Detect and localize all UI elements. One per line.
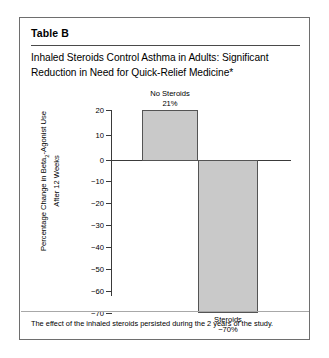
bar-chart: Percentage Change in Beta2-Agonist Use A… <box>20 102 309 307</box>
y-tick-mark <box>106 181 112 182</box>
y-tick-label: −10 <box>78 177 104 186</box>
header-divider <box>31 45 300 46</box>
y-tick-label: −60 <box>78 287 104 296</box>
y-tick-mark <box>106 269 112 270</box>
y-axis-label-line2: After 12 Weeks <box>52 96 61 266</box>
table-card: Table B Inhaled Steroids Control Asthma … <box>19 17 310 340</box>
y-tick-mark <box>106 313 112 314</box>
y-tick-mark <box>106 160 112 161</box>
y-tick-label: −50 <box>78 265 104 274</box>
y-axis-label-subscript: 2 <box>44 154 50 157</box>
footnote-text: The effect of the inhaled steroids persi… <box>31 319 303 329</box>
y-tick-mark <box>106 291 112 292</box>
y-tick-label: 10 <box>78 131 104 140</box>
chart-title: Inhaled Steroids Control Asthma in Adult… <box>31 51 303 80</box>
table-label: Table B <box>31 27 69 39</box>
y-tick-label: 20 <box>78 106 104 115</box>
y-tick-label: −30 <box>78 221 104 230</box>
y-tick-label: −70 <box>78 309 104 318</box>
y-axis-label-line1-b: -Agonist Use <box>39 111 48 154</box>
y-tick-mark <box>106 203 112 204</box>
y-tick-label: −20 <box>78 199 104 208</box>
footnote-divider <box>21 311 309 312</box>
y-tick-label: −40 <box>78 243 104 252</box>
y-axis-label-line1-a: Percentage Change in Beta <box>39 158 48 251</box>
y-axis-label: Percentage Change in Beta2-Agonist Use A… <box>39 96 61 266</box>
y-tick-mark <box>106 247 112 248</box>
bar-label-no-steroids: No Steroids 21% <box>128 89 212 108</box>
bar-no-steroids <box>142 110 198 161</box>
bar-label-no-steroids-name: No Steroids <box>128 89 212 99</box>
bar-label-no-steroids-value: 21% <box>128 99 212 109</box>
bar-steroids <box>198 160 258 313</box>
y-tick-label: 0 <box>78 156 104 165</box>
y-tick-mark <box>106 135 112 136</box>
y-tick-mark <box>106 225 112 226</box>
y-tick-mark <box>106 110 112 111</box>
